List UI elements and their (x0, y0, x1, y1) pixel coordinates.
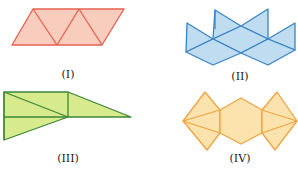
figure-1 (12, 9, 124, 45)
figure-2-label: (II) (231, 70, 248, 83)
figure-4 (183, 92, 297, 150)
figure-3-label: (III) (57, 152, 79, 165)
figure-4-label: (IV) (230, 152, 251, 165)
figures-canvas: (I) (II) (III) (0, 0, 298, 169)
figure-3 (4, 92, 131, 140)
figure-1-label: (I) (62, 68, 75, 81)
figure-2 (186, 9, 295, 65)
